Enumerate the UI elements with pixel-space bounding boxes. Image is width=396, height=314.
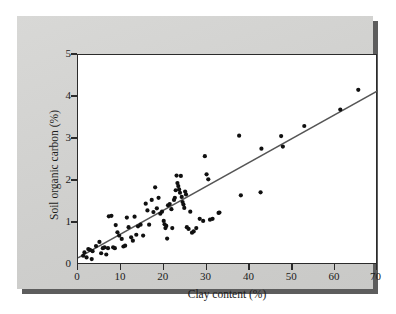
data-point	[120, 237, 124, 241]
data-point	[106, 246, 110, 250]
data-point	[99, 251, 103, 255]
data-point	[179, 174, 183, 178]
data-point	[186, 227, 190, 231]
data-point	[178, 191, 182, 195]
data-point	[156, 196, 160, 200]
x-tick-label-10: 10	[108, 271, 132, 282]
data-point	[147, 223, 151, 227]
x-tick-label-20: 20	[151, 271, 175, 282]
data-point	[206, 177, 210, 181]
data-point	[84, 255, 88, 259]
y-tick-label-5: 5	[57, 48, 71, 59]
x-tick-label-70: 70	[364, 271, 388, 282]
data-point	[155, 206, 159, 210]
x-tick-label-30: 30	[194, 271, 218, 282]
scatter-plot-svg	[78, 55, 378, 265]
data-point	[182, 206, 186, 210]
data-point	[194, 226, 198, 230]
data-point	[153, 185, 157, 189]
data-point	[151, 210, 155, 214]
figure-container: 5 4 3 2 1 0 0 10 20 30 40 50 60 70 Clay …	[0, 0, 396, 314]
data-point	[114, 223, 118, 227]
data-point	[168, 202, 172, 206]
data-point	[145, 208, 149, 212]
data-point	[90, 249, 94, 253]
data-point	[237, 134, 241, 138]
trendline	[78, 91, 378, 258]
data-point	[281, 144, 285, 148]
data-point	[174, 173, 178, 177]
data-point	[160, 210, 164, 214]
data-point	[188, 210, 192, 214]
data-point	[203, 154, 207, 158]
data-point	[134, 233, 138, 237]
data-point	[356, 88, 360, 92]
figure-panel: 5 4 3 2 1 0 0 10 20 30 40 50 60 70 Clay …	[17, 16, 373, 289]
data-point	[170, 226, 174, 230]
data-point	[164, 224, 168, 228]
data-point	[239, 193, 243, 197]
data-point	[141, 234, 145, 238]
y-axis-title: Soil organic carbon (%)	[48, 60, 60, 270]
data-point	[338, 108, 342, 112]
x-tick-label-50: 50	[279, 271, 303, 282]
data-point	[173, 196, 177, 200]
data-point	[132, 215, 136, 219]
data-point	[165, 236, 169, 240]
data-point	[125, 215, 129, 219]
data-point	[138, 223, 142, 227]
data-point	[201, 219, 205, 223]
data-point	[204, 172, 208, 176]
data-point	[192, 229, 196, 233]
data-point	[169, 207, 173, 211]
data-point	[97, 240, 101, 244]
data-point	[123, 244, 127, 248]
data-point	[302, 124, 306, 128]
data-point	[131, 239, 135, 243]
data-point	[109, 214, 113, 218]
plot-area	[77, 54, 377, 264]
data-point	[210, 217, 214, 221]
data-point	[144, 202, 148, 206]
data-point	[258, 190, 262, 194]
data-points	[81, 88, 360, 261]
data-point	[259, 147, 263, 151]
data-point	[126, 225, 130, 229]
data-point	[180, 195, 184, 199]
data-point	[90, 257, 94, 261]
data-point	[117, 234, 121, 238]
x-tick-label-0: 0	[65, 271, 89, 282]
x-axis-title: Clay content (%)	[77, 288, 377, 300]
data-point	[104, 252, 108, 256]
data-point	[113, 246, 117, 250]
data-point	[279, 134, 283, 138]
data-point	[94, 244, 98, 248]
data-point	[82, 250, 86, 254]
x-tick-label-60: 60	[322, 271, 346, 282]
x-tick-label-40: 40	[236, 271, 260, 282]
data-point	[184, 192, 188, 196]
data-point	[150, 198, 154, 202]
data-point	[217, 210, 221, 214]
